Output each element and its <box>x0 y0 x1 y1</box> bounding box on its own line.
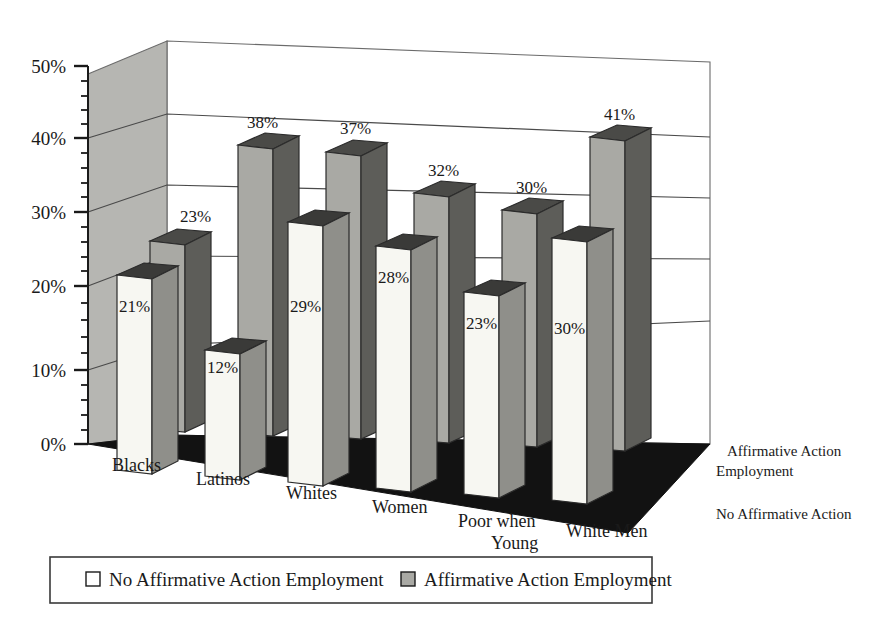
legend-item-no-affirmative-action[interactable]: No Affirmative Action Employment <box>86 569 384 590</box>
bar-poor-no-affirmative-action[interactable] <box>464 280 525 498</box>
data-label-whitemen-no-aa: 30% <box>554 319 585 338</box>
zaxis-affirmative-action-line2: Employment <box>716 463 794 479</box>
y-tick-label-50: 50% <box>31 56 66 77</box>
y-tick-label-0: 0% <box>41 434 67 455</box>
legend-label-no-affirmative-action: No Affirmative Action Employment <box>109 569 384 590</box>
bar-chart-3d: 50% 40% 30% 20% 10% 0% 23% 21% <box>0 0 892 621</box>
data-label-whitemen-aa: 41% <box>604 105 635 124</box>
y-minor-ticks <box>81 81 88 430</box>
bar-whites-no-affirmative-action[interactable] <box>288 210 349 486</box>
bar-side-face <box>240 341 266 480</box>
data-label-latinos-aa: 38% <box>247 113 278 132</box>
bar-side-face <box>152 266 178 474</box>
z-axis-series-labels: Affirmative Action Employment No Affirma… <box>716 443 852 522</box>
cat-label-poor-line1: Poor when <box>458 511 536 531</box>
bar-front-face <box>552 238 587 504</box>
y-tick-label-40: 40% <box>31 128 66 149</box>
data-label-blacks-aa: 23% <box>180 207 211 226</box>
cat-label-poor-line2: Young <box>491 533 538 553</box>
data-label-whites-aa: 37% <box>340 119 371 138</box>
data-label-poor-no-aa: 23% <box>466 314 497 333</box>
zaxis-no-affirmative-action: No Affirmative Action <box>716 506 852 522</box>
cat-label-blacks: Blacks <box>112 455 161 475</box>
cat-label-white-men: White Men <box>566 521 647 541</box>
y-tick-label-30: 30% <box>31 202 66 223</box>
legend: No Affirmative Action Employment Affirma… <box>50 557 672 603</box>
y-tick-label-10: 10% <box>31 360 66 381</box>
data-label-blacks-no-aa: 21% <box>119 297 150 316</box>
data-label-women-no-aa: 28% <box>378 268 409 287</box>
bar-side-face <box>499 283 525 498</box>
cat-label-whites: Whites <box>286 483 337 503</box>
data-label-poor-aa: 30% <box>516 178 547 197</box>
legend-swatch-gray-square-icon <box>401 572 415 586</box>
bar-side-face <box>323 213 349 486</box>
data-label-latinos-no-aa: 12% <box>207 358 238 377</box>
cat-label-women: Women <box>372 497 428 517</box>
bar-front-face <box>288 222 323 486</box>
y-axis: 50% 40% 30% 20% 10% 0% <box>31 56 88 455</box>
y-tick-label-20: 20% <box>31 276 66 297</box>
data-label-women-aa: 32% <box>428 161 459 180</box>
bar-side-face <box>587 229 613 504</box>
zaxis-affirmative-action-line1: Affirmative Action <box>727 443 842 459</box>
bar-side-face <box>625 128 651 451</box>
cat-label-latinos: Latinos <box>196 469 250 489</box>
bar-whitemen-no-affirmative-action[interactable] <box>552 226 613 504</box>
legend-label-affirmative-action: Affirmative Action Employment <box>424 569 672 590</box>
legend-item-affirmative-action[interactable]: Affirmative Action Employment <box>401 569 672 590</box>
data-label-whites-no-aa: 29% <box>290 297 321 316</box>
legend-swatch-white-square-icon <box>86 572 100 586</box>
chart-container: 50% 40% 30% 20% 10% 0% 23% 21% <box>0 0 892 621</box>
bar-side-face <box>411 237 437 492</box>
bar-blacks-no-affirmative-action[interactable] <box>117 263 178 474</box>
